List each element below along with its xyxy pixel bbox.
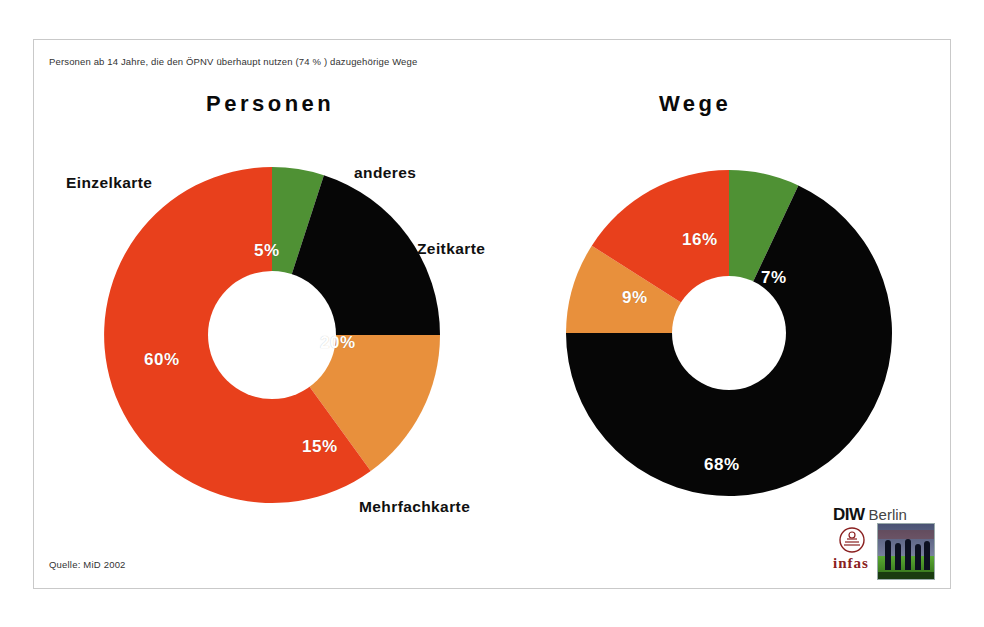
slice-label-wege-mehrfachkarte: 9%: [622, 288, 648, 308]
donut-hole-wege: [672, 276, 786, 390]
category-label-mehrfachkarte: Mehrfachkarte: [359, 498, 470, 516]
slice-label-personen-zeitkarte: 20%: [320, 333, 356, 353]
infas-text: infas: [833, 555, 869, 572]
slice-label-wege-anderes: 7%: [761, 268, 787, 288]
chart-title-wege: Wege: [659, 91, 731, 117]
photo-figure: [924, 541, 930, 570]
category-label-zeitkarte: Zeitkarte: [417, 240, 485, 258]
slice-label-wege-einzelkarte: 16%: [682, 230, 718, 250]
slice-label-personen-mehrfachkarte: 15%: [302, 437, 338, 457]
people-silhouettes-photo: [877, 523, 935, 580]
donut-chart-wege: 7% 68% 9% 16%: [564, 168, 894, 498]
category-label-anderes: anderes: [354, 164, 416, 182]
donut-personen-svg: [102, 165, 442, 505]
photo-strip: [878, 572, 934, 579]
donut-wege-svg: [564, 168, 894, 498]
infas-emblem-icon: [839, 527, 865, 553]
diw-text: DIW: [833, 505, 865, 525]
donut-chart-personen: 5% 20% 15% 60%: [102, 165, 442, 505]
photo-figure: [905, 539, 911, 570]
photo-figure: [885, 540, 891, 570]
logo-block: DIW Berlin infas: [831, 505, 936, 580]
photo-figure: [895, 543, 901, 570]
figure-frame: Personen ab 14 Jahre, die den ÖPNV überh…: [33, 39, 951, 589]
slice-label-personen-anderes: 5%: [254, 241, 280, 261]
slice-label-wege-zeitkarte: 68%: [704, 455, 740, 475]
header-note: Personen ab 14 Jahre, die den ÖPNV überh…: [49, 56, 417, 67]
photo-band: [878, 530, 934, 539]
source-note: Quelle: MiD 2002: [49, 559, 126, 570]
diw-berlin-wordmark: DIW Berlin: [833, 505, 907, 525]
berlin-text: Berlin: [869, 506, 907, 523]
photo-figure: [915, 544, 921, 570]
slice-label-personen-einzelkarte: 60%: [144, 350, 180, 370]
donut-hole-personen: [208, 271, 336, 399]
chart-title-personen: Personen: [206, 91, 334, 117]
category-label-einzelkarte: Einzelkarte: [66, 174, 152, 192]
